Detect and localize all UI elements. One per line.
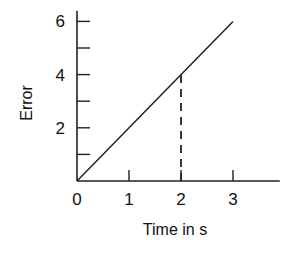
- chart: 0123 246 Time in s Error: [0, 0, 286, 257]
- y-tick-label: 4: [56, 66, 65, 85]
- marks: [77, 21, 233, 181]
- x-tick-label: 3: [228, 190, 237, 209]
- x-tick-label: 2: [176, 190, 185, 209]
- x-tick-label: 0: [72, 190, 81, 209]
- x-tick-label: 1: [124, 190, 133, 209]
- y-tick-label: 2: [56, 119, 65, 138]
- x-ticks: 0123: [72, 170, 237, 209]
- y-tick-label: 6: [56, 12, 65, 31]
- series-line: [77, 21, 233, 181]
- x-axis-label: Time in s: [143, 221, 207, 238]
- y-axis-label: Error: [18, 85, 35, 121]
- y-ticks: 246: [56, 12, 90, 154]
